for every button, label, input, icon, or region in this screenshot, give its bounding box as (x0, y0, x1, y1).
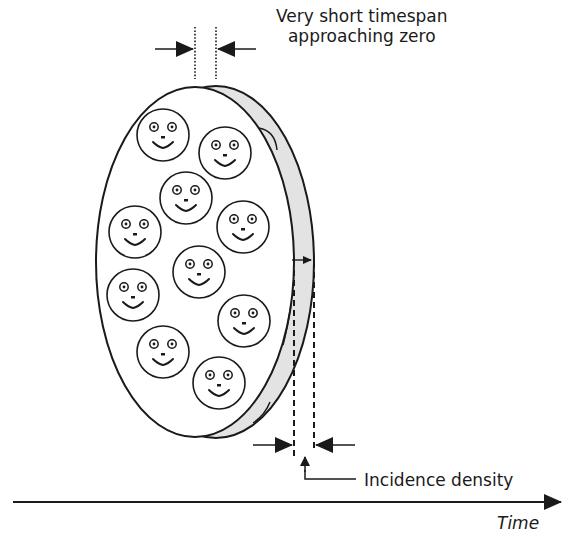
incidence-density-label: Incidence density (364, 470, 513, 490)
timespan-indicator-top (155, 27, 256, 79)
timespan-label-line1: Very short timespan (276, 6, 448, 26)
incidence-density-diagram (0, 0, 581, 551)
time-axis-label: Time (497, 513, 539, 533)
smiley-face-icon (217, 201, 269, 253)
timespan-label-line2: approaching zero (276, 26, 448, 46)
timespan-label: Very short timespan approaching zero (276, 6, 448, 46)
smiley-face-icon (193, 357, 245, 409)
smiley-face-icon (137, 326, 189, 378)
smiley-face-icon (199, 127, 251, 179)
smiley-face-icon (109, 206, 161, 258)
smiley-face-icon (137, 109, 189, 161)
incidence-pointer-line (305, 470, 356, 479)
smiley-face-icon (160, 172, 212, 224)
smiley-face-icon (173, 246, 225, 298)
smiley-face-icon (218, 295, 270, 347)
smiley-face-icon (107, 269, 159, 321)
